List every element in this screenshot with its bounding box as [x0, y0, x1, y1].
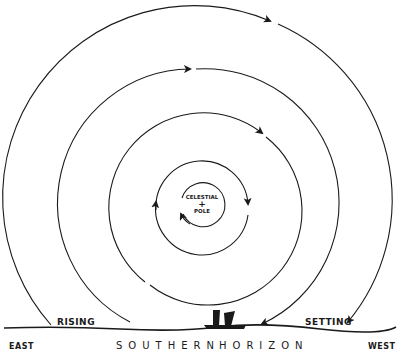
setting-label: SETTING [305, 317, 352, 327]
rising-label: RISING [57, 317, 95, 327]
east-label: EAST [9, 342, 34, 351]
horizon-label: HORIZON [219, 340, 309, 351]
west-label: WEST [368, 342, 396, 351]
southern-label: SOUTHERN [116, 340, 220, 351]
star-trails-diagram [0, 0, 401, 359]
pole-text: POLE [183, 208, 221, 215]
canoe-icon [204, 310, 246, 329]
pole-marker: + [183, 201, 221, 208]
celestial-pole-label: CELESTIAL + POLE [183, 194, 221, 215]
